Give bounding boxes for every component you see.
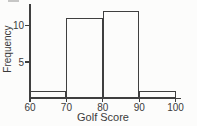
histogram-chart: Frequency Golf Score 51060708090100 [0,0,197,126]
x-tick-label: 80 [91,102,115,113]
x-axis-line [29,98,181,99]
y-axis-line [29,4,30,100]
x-tick-label: 100 [164,102,188,113]
y-tick-label: 10 [0,20,24,31]
y-axis-tick [25,61,30,62]
y-tick-label: 5 [0,57,24,68]
x-tick-label: 70 [54,102,78,113]
histogram-bar [103,11,139,99]
scan-artifact-mark [8,0,19,2]
y-axis-tick [25,25,30,26]
x-tick-label: 90 [127,102,151,113]
histogram-bar [66,18,102,98]
x-tick-label: 60 [18,102,42,113]
